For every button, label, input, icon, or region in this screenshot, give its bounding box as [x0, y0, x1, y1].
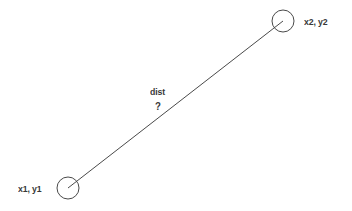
- diagram-graphics: [0, 0, 352, 211]
- point-label-2: x2, y2: [304, 17, 327, 27]
- distance-label: dist: [150, 87, 165, 97]
- point-label-1: x1, y1: [18, 184, 41, 194]
- distance-diagram: x1, y1 x2, y2 dist ?: [0, 0, 352, 211]
- distance-line: [68, 21, 283, 188]
- distance-value-unknown: ?: [155, 101, 161, 112]
